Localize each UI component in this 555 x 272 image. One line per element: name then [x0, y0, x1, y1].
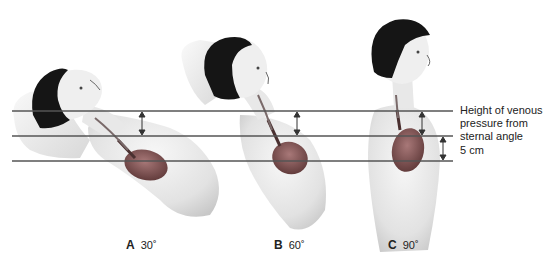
distance-5cm-label: 5 cm: [460, 144, 484, 157]
caption-b-angle: 60˚: [289, 239, 305, 251]
caption-b: B60˚: [274, 238, 305, 252]
jvp-diagram: Height of venous pressure from sternal a…: [0, 0, 555, 272]
caption-a-angle: 30˚: [141, 239, 157, 251]
caption-a: A30˚: [126, 238, 157, 252]
caption-c-angle: 90˚: [403, 239, 419, 251]
venous-pressure-label: Height of venous pressure from sternal a…: [460, 104, 543, 143]
arrow-b-venous-height-icon: [294, 112, 300, 135]
torso-c: [368, 105, 440, 252]
arrow-5cm-icon: [440, 137, 446, 160]
figure-a-30-degrees: [13, 61, 219, 217]
caption-b-letter: B: [274, 238, 283, 252]
caption-c: C90˚: [388, 238, 419, 252]
caption-a-letter: A: [126, 238, 135, 252]
caption-c-letter: C: [388, 238, 397, 252]
